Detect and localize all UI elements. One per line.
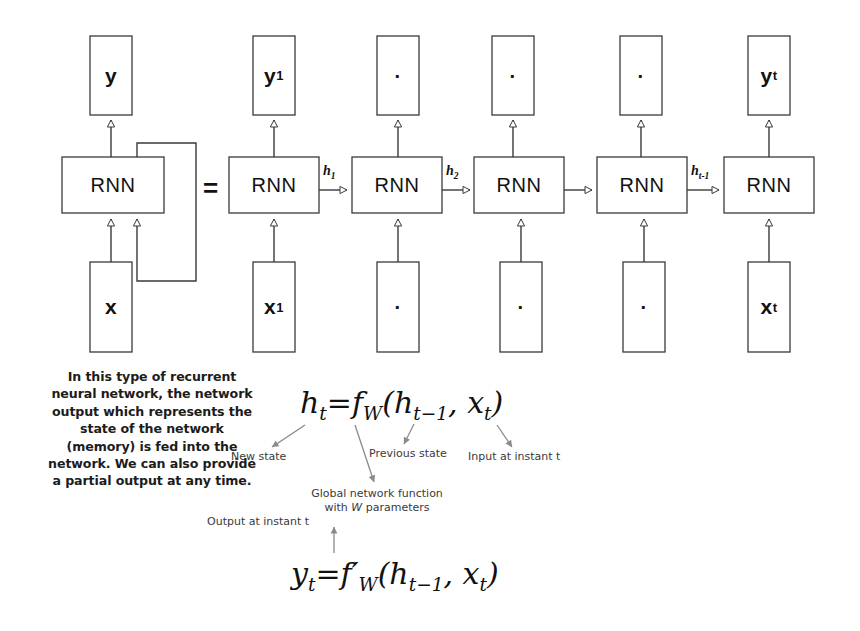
annotation-input-at-instant: Input at instant t bbox=[468, 450, 560, 464]
cell-label-5: RNN bbox=[724, 157, 814, 213]
output-eq-arg2-sub: t bbox=[480, 574, 487, 595]
output-eq-args: (h bbox=[378, 556, 409, 591]
input-label-5: xt bbox=[748, 262, 790, 352]
global-fn-pre: with bbox=[324, 501, 351, 514]
annotation-global-function: Global network function with W parameter… bbox=[282, 487, 472, 515]
annotation-global-function-line2: with W parameters bbox=[282, 501, 472, 515]
state-equation: ht=fW(ht−1, xt) bbox=[300, 385, 503, 424]
folded-output-label: y bbox=[90, 36, 132, 115]
annotation-output-at-instant: Output at instant t bbox=[207, 515, 309, 529]
annotation-previous-state: Previous state bbox=[369, 447, 447, 461]
state-eq-lhs-sub: t bbox=[319, 403, 326, 424]
output-label-4: · bbox=[620, 36, 662, 115]
annotation-new-state: New state bbox=[231, 450, 286, 464]
state-eq-arg1-sub: t−1 bbox=[413, 403, 448, 424]
folded-input-label: x bbox=[90, 262, 132, 352]
state-eq-args: (h bbox=[382, 385, 413, 420]
input-label-2: · bbox=[377, 262, 419, 352]
output-eq-arg1-sub: t−1 bbox=[409, 574, 444, 595]
output-label-5: yt bbox=[748, 36, 790, 115]
state-arrow-label-2-sub: 2 bbox=[454, 171, 459, 181]
output-label-2: · bbox=[377, 36, 419, 115]
description-paragraph: In this type of recurrent neural network… bbox=[46, 368, 258, 490]
cell-label-1: RNN bbox=[229, 157, 319, 213]
output-eq-fn: f′ bbox=[341, 556, 359, 591]
state-eq-sep: , x bbox=[448, 385, 484, 420]
output-label-3: · bbox=[492, 36, 534, 115]
input-label-3: · bbox=[500, 262, 542, 352]
cell-label-2: RNN bbox=[352, 157, 442, 213]
state-arrow-label-4-sub: t-1 bbox=[699, 171, 710, 181]
output-eq-lhs: y bbox=[291, 556, 308, 591]
state-arrow-label-2: h2 bbox=[446, 163, 459, 181]
state-eq-fn: f bbox=[352, 385, 363, 420]
output-eq-close: ) bbox=[487, 556, 499, 591]
cell-label-4: RNN bbox=[597, 157, 687, 213]
equality-symbol: = bbox=[203, 173, 218, 204]
state-eq-fn-sub: W bbox=[363, 403, 382, 424]
input-label-5-sub: t bbox=[773, 300, 778, 315]
output-label-5-sub: t bbox=[773, 68, 778, 83]
input-label-1-sub: 1 bbox=[276, 300, 284, 315]
state-arrow-label-1-sub: 1 bbox=[331, 171, 336, 181]
output-equation: yt=f′W(ht−1, xt) bbox=[291, 556, 499, 595]
state-eq-close: ) bbox=[492, 385, 504, 420]
state-eq-lhs: h bbox=[300, 385, 319, 420]
input-label-4: · bbox=[623, 262, 665, 352]
input-label-1: x1 bbox=[253, 262, 295, 352]
pointer-input-instant bbox=[497, 425, 512, 447]
state-eq-arg2-sub: t bbox=[484, 403, 491, 424]
diagram-canvas: y RNN x = y1 · · · yt RNN RNN RNN RNN RN… bbox=[0, 0, 860, 631]
pointer-new-state bbox=[272, 425, 305, 447]
state-arrow-label-4: ht-1 bbox=[691, 163, 709, 181]
state-eq-equals: = bbox=[327, 385, 352, 420]
global-fn-post: parameters bbox=[362, 501, 429, 514]
annotation-global-function-line1: Global network function bbox=[282, 487, 472, 501]
output-label-1: y1 bbox=[253, 36, 295, 115]
state-arrow-label-1: h1 bbox=[323, 163, 336, 181]
output-label-1-sub: 1 bbox=[276, 68, 284, 83]
output-eq-fn-sub: W bbox=[359, 574, 378, 595]
cell-label-3: RNN bbox=[474, 157, 564, 213]
global-fn-var: W bbox=[351, 501, 362, 514]
pointer-previous-state bbox=[404, 424, 414, 444]
output-eq-sep: , x bbox=[444, 556, 480, 591]
output-eq-equals: = bbox=[315, 556, 340, 591]
folded-cell-label: RNN bbox=[62, 157, 164, 213]
